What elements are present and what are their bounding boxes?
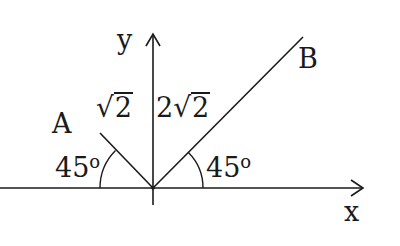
radicand: 2 <box>191 92 210 122</box>
x-axis-label: x <box>344 198 359 225</box>
vector-b-magnitude: 2√2 <box>156 92 210 122</box>
coefficient: 2 <box>156 94 173 122</box>
radical-sign: √ <box>173 94 191 122</box>
angle-arc-right <box>188 153 203 188</box>
origin-point <box>151 186 155 190</box>
radicand: 2 <box>114 92 133 122</box>
angle-value: 45 <box>206 152 240 183</box>
degree-symbol: o <box>89 151 100 172</box>
radical-sign: √ <box>96 94 114 122</box>
vector-a-magnitude: √2 <box>96 92 133 122</box>
y-axis-label: y <box>117 26 132 53</box>
angle-label-left: 45o <box>55 153 100 181</box>
angle-label-right: 45o <box>206 153 251 181</box>
sqrt-expression: √2 <box>96 92 133 122</box>
angle-value: 45 <box>55 152 89 183</box>
sqrt-expression: 2√2 <box>156 92 210 122</box>
vector-b-label: B <box>298 45 318 72</box>
vector-a-label: A <box>52 110 72 137</box>
vector-diagram: y x A √2 2√2 B 45o 45o <box>0 0 400 246</box>
degree-symbol: o <box>240 151 251 172</box>
angle-arc-left <box>100 151 116 189</box>
